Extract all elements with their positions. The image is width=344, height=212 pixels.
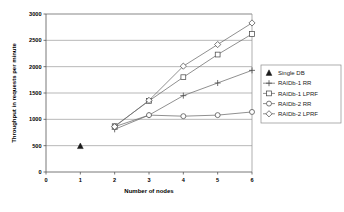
xtick-label-4: 4: [182, 177, 186, 183]
ytick-label-1500: 1500: [29, 90, 41, 96]
datapoint-raidb-2-rr-x5: [215, 113, 220, 118]
legend-marker-raidb-1-lprf: [267, 91, 272, 96]
ytick-label-500: 500: [32, 143, 41, 149]
series-line-raidb-1-lprf: [115, 34, 252, 126]
datapoint-raidb-2-rr-x4: [181, 114, 186, 119]
legend-label-raidb-1-rr: RAIDb-1 RR: [278, 80, 312, 86]
ytick-label-1000: 1000: [29, 116, 41, 122]
ytick-label-0: 0: [38, 169, 41, 175]
datapoint-raidb-2-rr-x6: [250, 109, 255, 114]
chart-container: 0500100015002000250030000123456Number of…: [0, 0, 344, 212]
xtick-label-0: 0: [44, 177, 47, 183]
xtick-label-5: 5: [216, 177, 219, 183]
datapoint-raidb-1-rr-x5: [215, 80, 221, 86]
datapoint-raidb-1-lprf-x5: [215, 52, 220, 57]
datapoint-raidb-1-rr-x6: [249, 67, 255, 73]
datapoint-raidb-2-lprf-x5: [215, 41, 221, 47]
x-axis-title: Number of nodes: [124, 188, 174, 194]
legend-label-raidb-2-lprf: RAIDb-2 LPRF: [278, 111, 318, 117]
y-axis-title: Throughput in requests per minute: [11, 43, 17, 143]
throughput-line-chart: 0500100015002000250030000123456Number of…: [0, 0, 344, 212]
xtick-label-2: 2: [113, 177, 116, 183]
legend-label-raidb-1-lprf: RAIDb-1 LPRF: [278, 91, 318, 97]
ytick-label-2500: 2500: [29, 37, 41, 43]
xtick-label-1: 1: [79, 177, 82, 183]
datapoint-raidb-2-rr-x3: [147, 113, 152, 118]
ytick-label-2000: 2000: [29, 64, 41, 70]
legend-marker-raidb-2-rr: [267, 101, 272, 106]
xtick-label-6: 6: [250, 177, 253, 183]
ytick-label-3000: 3000: [29, 11, 41, 17]
legend-label-raidb-2-rr: RAIDb-2 RR: [278, 101, 312, 107]
datapoint-raidb-1-rr-x4: [180, 93, 186, 99]
xtick-label-3: 3: [147, 177, 150, 183]
legend-label-single-db: Single DB: [278, 70, 305, 76]
datapoint-raidb-2-lprf-x6: [249, 20, 255, 26]
datapoint-raidb-1-lprf-x6: [250, 32, 255, 37]
datapoint-raidb-1-lprf-x4: [181, 75, 186, 80]
